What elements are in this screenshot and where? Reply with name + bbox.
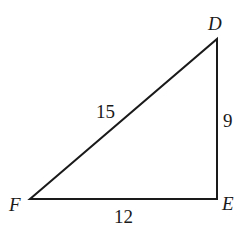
triangle-def [30, 39, 217, 199]
vertex-label-e: E [221, 193, 234, 214]
vertex-label-d: D [207, 13, 222, 34]
side-label-df: 15 [96, 101, 115, 122]
triangle-diagram: D E F 15 9 12 [0, 0, 249, 231]
vertex-label-f: F [8, 194, 21, 215]
side-label-fe: 12 [114, 206, 133, 227]
side-label-de: 9 [223, 110, 233, 131]
